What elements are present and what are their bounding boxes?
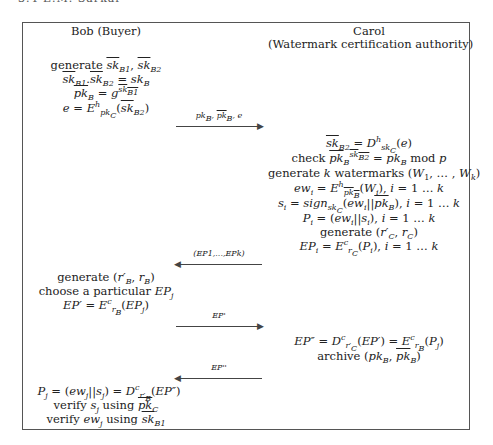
bob-step: e = EhpkC(skB2) <box>22 101 190 116</box>
carol-step: si = signskC(ewi||pkB), i = 1 … k <box>268 196 470 211</box>
message-label: EP'' <box>176 363 262 372</box>
carol-step: EPi = EcrC(Pi), i = 1 … k <box>268 239 470 254</box>
arrowhead-left-icon: ◀ <box>174 374 181 383</box>
message-arrow-right: pkB, pkB, e ▶ <box>176 120 262 132</box>
arrowhead-right-icon: ▶ <box>257 322 264 331</box>
carol-step: Pi = (ewi||si), i = 1 … k <box>268 211 470 225</box>
message-arrow-left: (EP1,...,EPk) ◀ <box>176 258 262 270</box>
carol-step: generate k watermarks (W1, … , Wk) <box>268 166 470 180</box>
message-label: pkB, pkB, e <box>176 111 262 120</box>
bob-step: verify ewj using skB1 <box>22 412 190 426</box>
message-arrow-right: EP' ▶ <box>176 320 262 332</box>
message-label: EP' <box>176 311 262 320</box>
bob-header: Bob (Buyer) <box>22 24 190 38</box>
bob-step: generate skB1, skB2 <box>22 58 190 72</box>
carol-header: Carol <box>268 24 470 38</box>
carol-step: EP″ = Dcr′C(EP′) = EcrB(Pj) <box>268 334 470 349</box>
carol-step: skB2 = DhskC(e) <box>268 136 470 151</box>
message-label: (EP1,...,EPk) <box>176 249 262 258</box>
bob-step: choose a particular EPj <box>22 284 190 298</box>
carol-step: archive (pkB, pkB) <box>268 349 470 363</box>
bob-step: EP′ = EcrB(EPj) <box>22 298 190 313</box>
carol-step: ewi = EhpkB(Wi), i = 1 … k <box>268 181 470 196</box>
bob-step: Pj = (ewj||sj) = Dcr′B(EP″) <box>24 384 194 399</box>
carol-step: check pkBskB2 = pkB mod p <box>268 151 470 165</box>
arrowhead-right-icon: ▶ <box>257 122 264 131</box>
carol-step: generate (r′C, rC) <box>268 225 470 239</box>
bob-step: verify sj using pkC <box>22 398 190 412</box>
bob-step: pkB = gskB1 <box>22 86 190 100</box>
carol-role: (Watermark certification authority) <box>268 37 470 51</box>
bob-step: generate (r′B, rB) <box>22 270 190 284</box>
message-arrow-left: EP'' ◀ <box>176 372 262 384</box>
running-head: 3.4 E.M. Sarkar <box>18 0 122 5</box>
bob-step: skB1.skB2 = skB <box>22 72 190 86</box>
arrowhead-left-icon: ◀ <box>174 260 181 269</box>
